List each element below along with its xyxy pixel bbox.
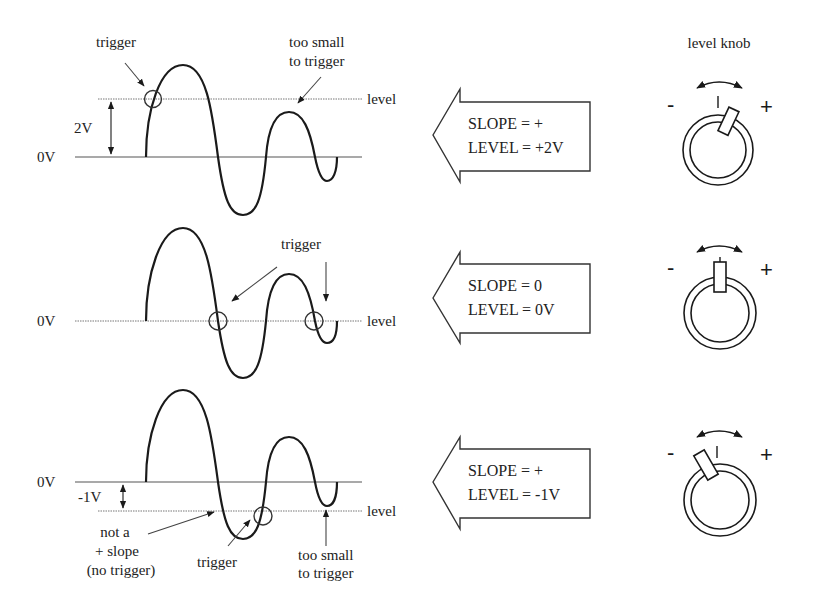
level-setting: LEVEL = +2V bbox=[468, 139, 564, 156]
callout-arrow-shape bbox=[433, 89, 590, 182]
level-setting: LEVEL = -1V bbox=[468, 486, 560, 503]
zero-volt-label: 0V bbox=[37, 313, 56, 329]
level-label: level bbox=[367, 313, 396, 329]
level-knob-2: - + bbox=[667, 246, 773, 349]
rotate-arrow-icon bbox=[697, 246, 742, 252]
rotate-arrow-icon bbox=[697, 431, 742, 437]
slope-setting: SLOPE = 0 bbox=[468, 277, 542, 294]
knob-pointer-handle bbox=[718, 107, 739, 135]
knob-plus-label: + bbox=[760, 94, 773, 119]
callout-arrow-shape bbox=[433, 437, 590, 529]
knob-inner-ring bbox=[691, 471, 749, 529]
settings-callout-2: SLOPE = 0 LEVEL = 0V bbox=[433, 252, 590, 343]
zero-volt-label: 0V bbox=[37, 474, 56, 490]
level-setting: LEVEL = 0V bbox=[468, 301, 555, 318]
panel-3: 0V level -1V trigger not a + slope (no t… bbox=[37, 390, 773, 581]
trigger-annotation: trigger bbox=[197, 554, 237, 570]
panel-2: 0V level trigger SLOPE = 0 LEVEL = 0V - … bbox=[37, 228, 773, 378]
rotate-arrow-icon bbox=[697, 82, 742, 88]
slope-setting: SLOPE = + bbox=[468, 115, 543, 132]
callout-arrow-shape bbox=[433, 252, 590, 343]
knob-outer-ring bbox=[684, 464, 756, 536]
settings-callout-1: SLOPE = + LEVEL = +2V bbox=[433, 89, 590, 182]
too-small-annotation-line2: to trigger bbox=[289, 53, 344, 69]
knob-outer-ring bbox=[683, 115, 753, 185]
trigger-annotation: trigger bbox=[281, 236, 321, 252]
too-small-annotation-line2: to trigger bbox=[298, 565, 353, 581]
waveform bbox=[146, 390, 337, 539]
not-slope-annotation-line3: (no trigger) bbox=[87, 562, 156, 579]
knob-plus-label: + bbox=[760, 442, 773, 467]
not-slope-annotation-line2: + slope bbox=[95, 543, 139, 559]
not-slope-annotation-line1: not a bbox=[100, 524, 130, 540]
too-small-annotation-line1: too small bbox=[289, 34, 344, 50]
offset-label: -1V bbox=[78, 489, 101, 505]
waveform-plot-3: 0V level -1V trigger not a + slope (no t… bbox=[37, 390, 396, 581]
not-slope-pointer-arrow bbox=[148, 512, 214, 534]
knob-minus-label: - bbox=[667, 92, 674, 117]
knob-plus-label: + bbox=[760, 257, 773, 282]
waveform-plot-1: 0V level 2V trigger too small to trigger bbox=[37, 34, 396, 215]
zero-volt-label: 0V bbox=[37, 149, 56, 165]
knob-minus-label: - bbox=[667, 440, 674, 465]
level-label: level bbox=[367, 91, 396, 107]
too-small-annotation-line1: too small bbox=[298, 547, 353, 563]
level-knob-1: - + bbox=[667, 82, 773, 185]
level-label: level bbox=[367, 503, 396, 519]
oscilloscope-trigger-diagram: level knob 0V level 2V trigger too small… bbox=[0, 0, 819, 611]
knob-column-title: level knob bbox=[688, 35, 751, 51]
waveform bbox=[146, 65, 337, 215]
trigger-annotation: trigger bbox=[96, 34, 136, 50]
knob-minus-label: - bbox=[667, 255, 674, 280]
level-knob-3: - + bbox=[667, 431, 773, 536]
settings-callout-3: SLOPE = + LEVEL = -1V bbox=[433, 437, 590, 529]
waveform-plot-2: 0V level trigger bbox=[37, 228, 396, 378]
trigger-pointer-arrow bbox=[125, 63, 144, 86]
knob-pointer-handle bbox=[714, 262, 726, 292]
slope-setting: SLOPE = + bbox=[468, 462, 543, 479]
offset-label: 2V bbox=[74, 120, 93, 136]
panel-1: 0V level 2V trigger too small to trigger… bbox=[37, 34, 773, 215]
